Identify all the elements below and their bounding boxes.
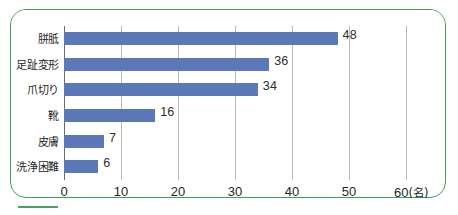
x-tick-label-40: 40 [285,184,299,199]
bar-row: 足趾変形36 [64,52,406,78]
category-label: 胼胝 [38,30,59,46]
gridline-60 [406,26,407,180]
bar-value-label: 6 [103,156,110,170]
x-tick-label-50: 50 [342,184,356,199]
bar-value-label: 34 [263,79,277,93]
chart-screenshot: 胼胝48足趾変形36爪切り34靴16皮膚7洗浄困難6 0102030405060… [0,0,458,215]
x-axis-unit-label: (名) [408,186,428,200]
bar-value-label: 36 [274,54,288,68]
bar-row: 爪切り34 [64,77,406,103]
bar [64,32,338,45]
bar-row: 靴16 [64,103,406,129]
plot-area: 胼胝48足趾変形36爪切り34靴16皮膚7洗浄困難6 0102030405060… [64,26,406,180]
bar-value-label: 16 [160,105,174,119]
category-label: 足趾変形 [16,56,59,72]
bar-row: 洗浄困難6 [64,154,406,180]
bar [64,160,98,173]
bar-row: 胼胝48 [64,26,406,52]
category-label: 洗浄困難 [16,158,59,174]
bar-value-label: 48 [343,28,357,42]
bar [64,135,104,148]
x-tick-label-0: 0 [60,184,67,199]
category-label: 皮膚 [38,133,59,149]
bar-row: 皮膚7 [64,129,406,155]
x-tick-label-60: 60(名) [394,184,428,200]
bar [64,58,269,71]
x-tick-label-30: 30 [228,184,242,199]
bar [64,83,258,96]
bar [64,109,155,122]
bottom-green-rule [18,206,58,208]
category-label: 爪切り [27,81,59,97]
category-label: 靴 [48,107,59,123]
x-tick-label-20: 20 [171,184,185,199]
bar-value-label: 7 [109,131,116,145]
x-tick-label-10: 10 [114,184,128,199]
